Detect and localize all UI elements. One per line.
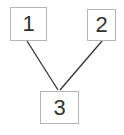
- node-1: 1: [10, 7, 47, 41]
- node-2-label: 2: [95, 12, 107, 38]
- node-2: 2: [87, 9, 116, 41]
- node-3: 3: [40, 91, 79, 124]
- edge-2-to-3: [60, 41, 102, 90]
- edge-1-to-3: [27, 41, 58, 90]
- node-1-label: 1: [22, 11, 34, 37]
- node-3-label: 3: [53, 95, 65, 121]
